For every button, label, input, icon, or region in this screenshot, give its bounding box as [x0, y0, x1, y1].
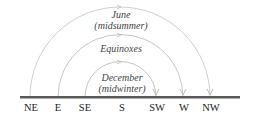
equinoxes-label: Equinoxes: [100, 43, 142, 54]
direction-s: S: [119, 102, 125, 113]
horizon-line: [20, 96, 240, 99]
direction-nw: NW: [202, 102, 220, 113]
june-label: June (midsummer): [94, 9, 147, 31]
direction-e: E: [55, 102, 61, 113]
december-label: December (midwinter): [98, 72, 145, 94]
direction-ne: NE: [24, 102, 38, 113]
december-label-line1: December: [98, 72, 145, 83]
december-label-line2: (midwinter): [98, 83, 145, 94]
june-label-line2: (midsummer): [94, 20, 147, 31]
equinoxes-label-line1: Equinoxes: [100, 43, 142, 54]
june-label-line1: June: [94, 9, 147, 20]
direction-w: W: [179, 102, 189, 113]
direction-sw: SW: [149, 102, 165, 113]
direction-se: SE: [79, 102, 91, 113]
